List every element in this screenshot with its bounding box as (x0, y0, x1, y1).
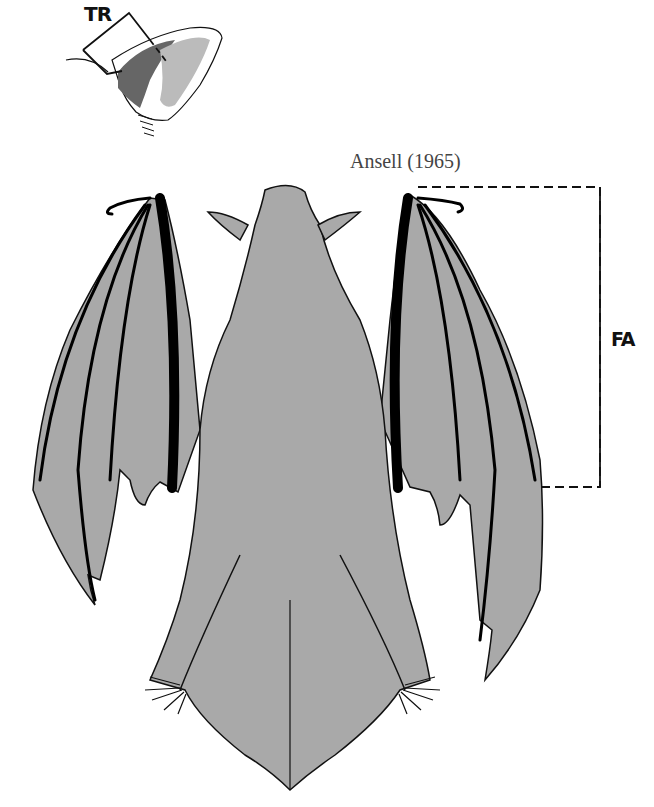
ear-inset (66, 13, 222, 136)
bat-illustration (33, 185, 543, 790)
tragus-label: TR (84, 2, 111, 26)
forearm-label: FA (611, 328, 635, 350)
citation-text: Ansell (1965) (350, 150, 461, 173)
ear-inset-illustration (0, 0, 654, 807)
